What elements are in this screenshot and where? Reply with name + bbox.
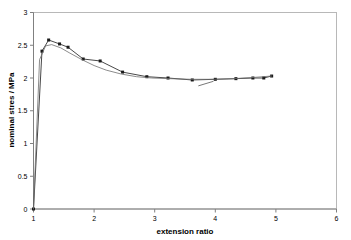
x-axis-title: extension ratio — [157, 227, 214, 236]
y-tick-label-1: 1 — [24, 140, 28, 147]
x-tick-label-2: 2 — [92, 215, 96, 222]
x-tick-label-5: 5 — [274, 215, 278, 222]
chart-background — [0, 0, 351, 240]
data-point-marker — [58, 42, 61, 45]
x-tick-label-6: 6 — [335, 215, 339, 222]
y-tick-label-2.5: 2.5 — [18, 42, 28, 49]
data-point-marker — [67, 46, 70, 49]
y-tick-label-1.5: 1.5 — [18, 107, 28, 114]
data-point-marker — [47, 39, 50, 42]
y-tick-label-3: 3 — [24, 9, 28, 16]
x-tick-label-4: 4 — [213, 215, 217, 222]
nominal-stress-extension-ratio-chart: 123456 00.511.522.53 extension ratio nom… — [0, 0, 351, 240]
x-tick-label-3: 3 — [153, 215, 157, 222]
y-axis-title: nominal stres / MPa — [7, 72, 16, 148]
data-point-marker — [121, 71, 124, 74]
y-tick-label-0: 0 — [24, 206, 28, 213]
data-point-marker — [251, 77, 254, 80]
data-point-marker — [99, 59, 102, 62]
x-tick-label-1: 1 — [32, 215, 36, 222]
y-tick-label-0.5: 0.5 — [18, 173, 28, 180]
y-tick-label-2: 2 — [24, 75, 28, 82]
chart-container: 123456 00.511.522.53 extension ratio nom… — [0, 0, 351, 240]
data-point-marker — [167, 77, 170, 80]
